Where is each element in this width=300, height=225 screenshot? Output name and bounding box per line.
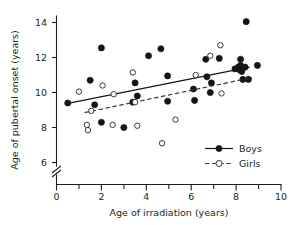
y-tick-label-10: 10 <box>35 87 47 98</box>
data-point <box>159 141 164 146</box>
y-tick-label-14: 14 <box>35 17 47 28</box>
data-point <box>207 89 213 95</box>
data-point <box>216 55 222 61</box>
data-series-layer <box>65 19 261 146</box>
data-point <box>242 64 248 70</box>
data-point <box>132 99 137 104</box>
y-tick-label-6: 6 <box>41 157 47 168</box>
data-point <box>218 43 223 48</box>
x-tick-label-0: 0 <box>53 191 59 202</box>
x-tick-label-8: 8 <box>233 191 239 202</box>
legend-item-girls[interactable]: Girls <box>205 158 261 169</box>
data-point <box>121 124 127 130</box>
data-point <box>135 123 140 128</box>
data-point <box>254 62 260 68</box>
fit-line-boys <box>65 67 249 104</box>
data-point <box>132 80 138 86</box>
data-point <box>165 98 171 104</box>
legend-label-boys: Boys <box>239 143 262 154</box>
y-axis-title: Age of pubertal onset (years) <box>9 30 20 170</box>
data-point <box>110 122 115 127</box>
y-tick-label-12: 12 <box>35 52 47 63</box>
series-boys <box>65 19 261 131</box>
legend: Boys Girls <box>205 143 262 169</box>
data-point <box>65 100 71 106</box>
data-point <box>100 83 105 88</box>
x-ticks-group <box>57 185 282 191</box>
scatter-plot: 14 12 10 8 6 0 2 4 6 8 10 <box>0 0 300 225</box>
y-ticks-group <box>52 23 57 163</box>
data-point <box>92 102 98 108</box>
legend-item-boys[interactable]: Boys <box>205 143 262 154</box>
x-axis-title: Age of irradiation (years) <box>110 207 229 218</box>
data-point <box>165 73 171 79</box>
figure-container: 14 12 10 8 6 0 2 4 6 8 10 <box>0 0 300 225</box>
data-point <box>191 97 197 103</box>
x-tick-label-10: 10 <box>275 191 287 202</box>
x-tick-label-2: 2 <box>98 191 104 202</box>
y-tick-labels-group: 14 12 10 8 6 <box>35 17 47 168</box>
data-point <box>193 72 198 77</box>
data-point <box>98 119 104 125</box>
data-point <box>84 122 89 127</box>
data-point <box>243 19 249 25</box>
data-point <box>87 77 93 83</box>
data-point <box>219 91 224 96</box>
data-point <box>76 89 81 94</box>
x-tick-label-4: 4 <box>143 191 149 202</box>
data-point <box>208 53 213 58</box>
data-point <box>130 70 135 75</box>
data-point <box>237 56 243 62</box>
data-point <box>204 74 210 80</box>
legend-label-girls: Girls <box>239 158 261 169</box>
data-point <box>190 86 196 92</box>
axis-break-icon <box>52 166 61 173</box>
data-point <box>89 108 94 113</box>
x-tick-label-6: 6 <box>188 191 194 202</box>
data-point <box>98 45 104 51</box>
data-point <box>111 92 116 97</box>
series-girls <box>76 43 252 146</box>
data-point <box>173 117 178 122</box>
legend-marker-girls <box>216 161 222 167</box>
x-tick-labels-group: 0 2 4 6 8 10 <box>53 191 287 202</box>
data-point <box>158 46 164 52</box>
data-point <box>85 127 90 132</box>
legend-marker-boys <box>216 145 222 151</box>
data-point <box>145 53 151 59</box>
data-point <box>134 93 140 99</box>
y-tick-label-8: 8 <box>41 122 47 133</box>
